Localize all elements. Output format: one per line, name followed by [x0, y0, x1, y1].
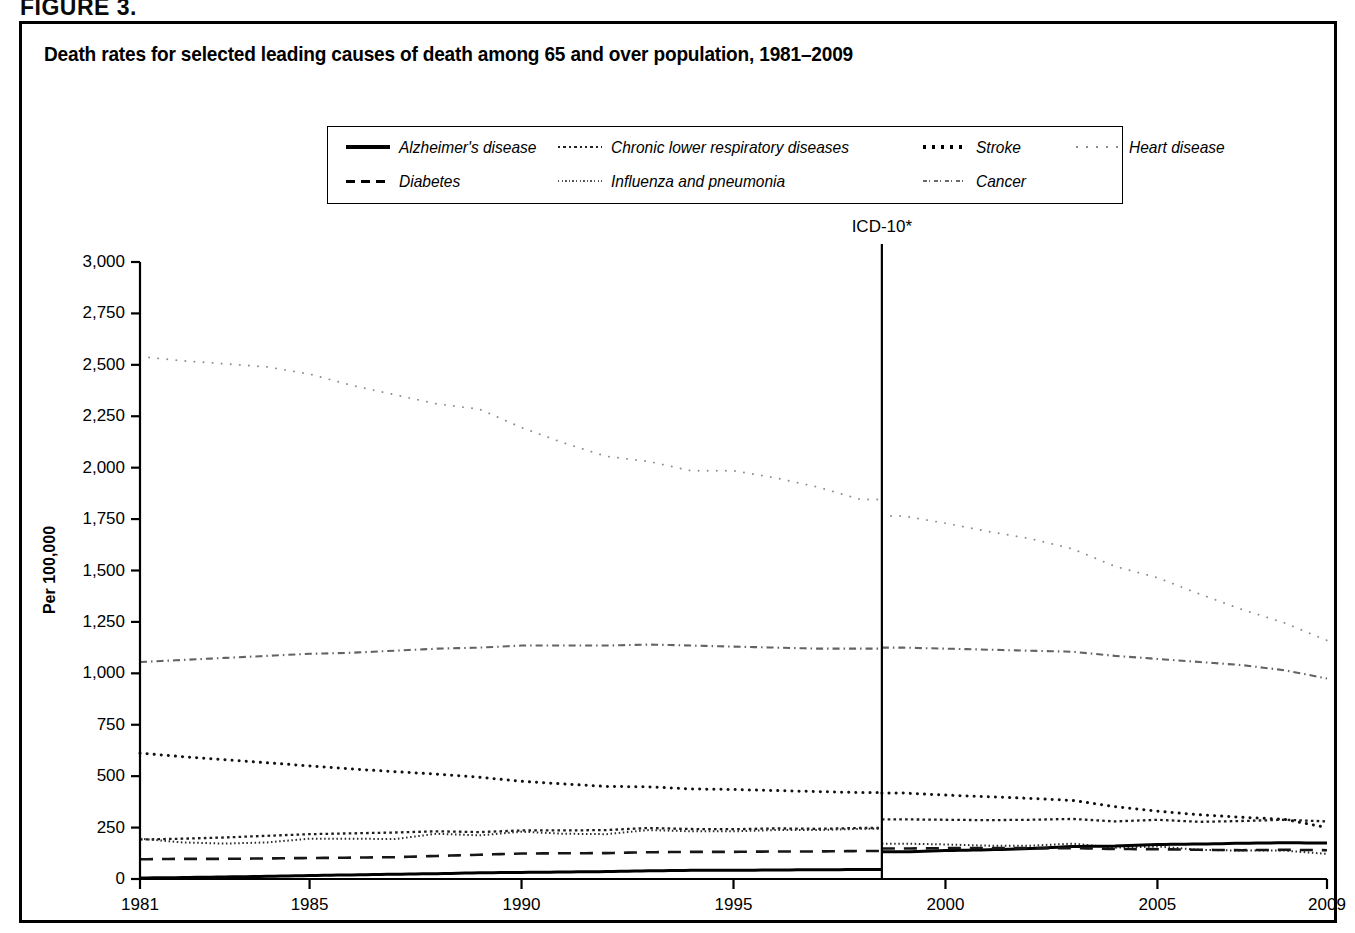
y-axis-tick-label: 2,750 — [22, 303, 125, 323]
x-axis-tick-label: 1981 — [121, 895, 159, 915]
figure-frame: Death rates for selected leading causes … — [19, 21, 1337, 923]
legend-item-label: Chronic lower respiratory diseases — [611, 138, 849, 157]
y-axis-tick-label: 1,250 — [22, 612, 125, 632]
series-line-heart-disease — [140, 357, 1327, 641]
legend-line-swatch — [558, 180, 602, 182]
x-axis-tick-label: 1985 — [291, 895, 329, 915]
legend-line-swatch — [923, 180, 967, 182]
y-axis-tick-label: 0 — [22, 869, 125, 889]
legend-item: Heart disease — [1076, 131, 1231, 163]
x-axis-tick-label: 2005 — [1139, 895, 1177, 915]
icd10-annotation-label: ICD-10* — [852, 217, 912, 237]
series-line-cancer — [140, 645, 1327, 679]
y-axis-tick-label: 1,000 — [22, 663, 125, 683]
legend-item: Influenza and pneumonia — [558, 165, 796, 197]
y-axis-tick-label: 250 — [22, 818, 125, 838]
legend-row-1: Alzheimer's diseaseChronic lower respira… — [328, 131, 1122, 163]
legend-item: Chronic lower respiratory diseases — [558, 131, 864, 163]
y-axis-tick-label: 2,000 — [22, 458, 125, 478]
series-line-chronic-lower-respiratory-diseases — [140, 819, 1327, 840]
legend-item-label: Stroke — [976, 138, 1021, 157]
series-line-influenza-and-pneumonia — [140, 829, 1327, 854]
legend-item-label: Heart disease — [1129, 138, 1225, 157]
series-line-alzheimer-s-disease — [140, 843, 1327, 878]
legend-line-swatch — [558, 146, 602, 149]
legend-item-label: Alzheimer's disease — [399, 138, 536, 157]
legend-line-swatch — [346, 180, 390, 183]
chart-axes — [131, 262, 1327, 889]
y-axis-tick-label: 1,500 — [22, 561, 125, 581]
y-axis-tick-label: 1,750 — [22, 509, 125, 529]
y-axis-title: Per 100,000 — [41, 520, 59, 620]
series-line-stroke — [140, 753, 1327, 827]
y-axis-tick-label: 500 — [22, 766, 125, 786]
y-axis-tick-label: 2,250 — [22, 406, 125, 426]
legend-line-swatch — [923, 145, 967, 148]
y-axis-tick-label: 750 — [22, 715, 125, 735]
legend-line-swatch — [1076, 146, 1120, 148]
y-axis-tick-label: 2,500 — [22, 355, 125, 375]
legend-item: Cancer — [923, 165, 1029, 197]
legend-item-label: Cancer — [976, 172, 1026, 191]
legend-line-swatch — [346, 145, 390, 148]
legend-item: Diabetes — [346, 165, 464, 197]
x-axis-tick-label: 1990 — [503, 895, 541, 915]
x-axis-tick-label: 1995 — [715, 895, 753, 915]
y-axis-tick-label: 3,000 — [22, 252, 125, 272]
chart-legend: Alzheimer's diseaseChronic lower respira… — [327, 126, 1123, 204]
legend-item-label: Influenza and pneumonia — [611, 172, 785, 191]
series-line-diabetes — [140, 848, 1327, 859]
chart-title: Death rates for selected leading causes … — [44, 42, 853, 66]
legend-item: Alzheimer's disease — [346, 131, 545, 163]
figure-number-label: FIGURE 3. — [20, 0, 137, 21]
x-axis-tick-label: 2009 — [1308, 895, 1346, 915]
legend-item: Stroke — [923, 131, 1024, 163]
x-axis-tick-label: 2000 — [927, 895, 965, 915]
legend-row-2: DiabetesInfluenza and pneumoniaCancer — [328, 165, 1122, 197]
legend-item-label: Diabetes — [399, 172, 460, 191]
